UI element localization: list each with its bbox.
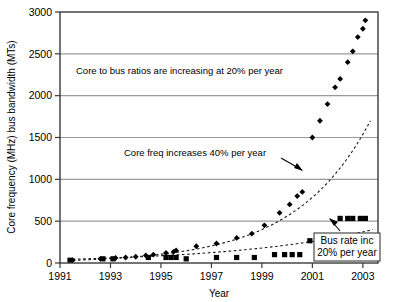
x-tick-label-1991: 1991	[48, 270, 72, 282]
data-point	[290, 252, 295, 257]
data-point	[252, 255, 257, 260]
data-point	[146, 255, 151, 260]
y-tick-label-0: 0	[46, 257, 52, 269]
data-point	[338, 216, 343, 221]
data-point	[67, 258, 72, 263]
data-point	[363, 216, 368, 221]
y-axis: 050010001500200025003000	[29, 6, 60, 269]
data-point	[100, 256, 105, 261]
data-point	[168, 255, 173, 260]
data-point	[163, 255, 168, 260]
x-tick-label-1995: 1995	[149, 270, 173, 282]
data-point	[350, 216, 355, 221]
x-tick-label-1999: 1999	[250, 270, 274, 282]
data-point	[184, 256, 189, 261]
annotation-bus-rate-line2: 20% per year	[317, 247, 377, 258]
x-tick-label-2003: 2003	[351, 270, 375, 282]
x-axis: 1991199319951997199920012003	[48, 263, 374, 282]
data-point	[282, 252, 287, 257]
x-tick-label-1993: 1993	[99, 270, 123, 282]
y-tick-label-2000: 2000	[29, 89, 53, 101]
x-axis-title: Year	[209, 288, 230, 299]
y-axis-title: Core frequency (MHz) bus bandwidth (MTs)	[6, 40, 17, 233]
data-point	[307, 238, 312, 243]
data-point	[358, 216, 363, 221]
chart-figure: 050010001500200025003000 199119931995199…	[0, 0, 400, 302]
data-point	[110, 256, 115, 261]
y-tick-label-1000: 1000	[29, 173, 53, 185]
data-point	[234, 255, 239, 260]
y-tick-label-2500: 2500	[29, 48, 53, 60]
y-tick-label-1500: 1500	[29, 131, 53, 143]
y-tick-label-500: 500	[34, 215, 52, 227]
annotation-bus-rate-line1: Bus rate inc	[321, 235, 374, 246]
annotation-core-freq-growth: Core freq increases 40% per year	[124, 147, 266, 158]
data-point	[272, 252, 277, 257]
data-point	[345, 216, 350, 221]
annotation-core-bus-ratio: Core to bus ratios are increasing at 20%…	[76, 65, 283, 76]
data-point	[214, 255, 219, 260]
x-tick-label-2001: 2001	[301, 270, 325, 282]
frequency-vs-bus-bandwidth-chart: 050010001500200025003000 199119931995199…	[0, 0, 400, 302]
x-tick-label-1997: 1997	[200, 270, 224, 282]
data-point	[297, 252, 302, 257]
y-tick-label-3000: 3000	[29, 6, 53, 18]
data-point	[173, 255, 178, 260]
